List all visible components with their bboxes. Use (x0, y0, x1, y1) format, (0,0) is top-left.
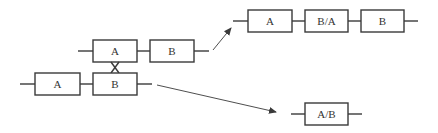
gene-label: B (379, 15, 386, 27)
recombination-diagram: A B A B A B/A B A/B (0, 0, 438, 133)
gene-label: B/A (317, 15, 335, 27)
result-top-strand: A B/A B (233, 10, 418, 32)
result-bottom-strand: A/B (291, 103, 362, 125)
gene-label: A (111, 45, 119, 57)
gene-label: A (266, 15, 274, 27)
parent-top-strand: A B (78, 40, 209, 62)
gene-label: B (168, 45, 175, 57)
gene-label: B (111, 78, 118, 90)
arrow-to-result-bottom-icon (157, 85, 276, 112)
arrow-to-result-top-icon (213, 28, 231, 50)
gene-label: A/B (317, 108, 335, 120)
parent-bottom-strand: A B (20, 73, 152, 95)
gene-label: A (54, 78, 62, 90)
crossover-icon (111, 62, 119, 73)
